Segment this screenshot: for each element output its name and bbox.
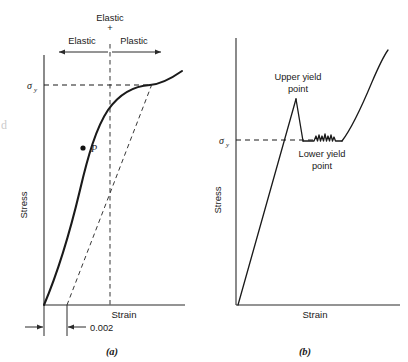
stress-strain-figure: d Elastic + Elastic Plastic σ y <box>0 0 408 362</box>
panel-a-x-axis-label: Strain <box>111 309 136 320</box>
panel-a-region-left-label: Elastic <box>68 36 96 46</box>
panel-b: σ y Upper yield point Lower yield point … <box>212 38 400 358</box>
panel-a-point-p-marker <box>80 145 85 150</box>
panel-b-upper-yield-label-line1: Upper yield <box>274 72 321 82</box>
panel-a-caption: (a) <box>106 346 118 358</box>
panel-b-yield-stress-subscript: y <box>225 141 230 149</box>
panel-b-yield-stress-label: σ <box>219 135 225 146</box>
figure-canvas: d Elastic + Elastic Plastic σ y <box>0 0 408 362</box>
panel-a-yield-stress-subscript: y <box>33 86 38 94</box>
panel-b-upper-yield-label-line2: point <box>288 84 309 94</box>
panel-b-lower-yield-label-line1: Lower yield <box>298 149 345 159</box>
panel-b-strain-hardening-curve <box>342 50 388 141</box>
panel-a-region-right-label: Plastic <box>120 36 148 46</box>
panel-b-caption: (b) <box>299 346 311 358</box>
panel-b-lower-yield-label-line2: point <box>312 161 333 171</box>
panel-a-region-plus-label: + <box>107 23 112 33</box>
page-bleed-text: d <box>1 118 7 132</box>
panel-a-offset-label: 0.002 <box>90 323 113 333</box>
panel-b-elastic-rise <box>238 99 296 305</box>
panel-a-stress-strain-curve <box>44 71 182 305</box>
panel-b-y-axis-label: Stress <box>212 186 223 213</box>
panel-a: Elastic + Elastic Plastic σ y P <box>18 13 185 358</box>
panel-a-y-axis-label: Stress <box>18 191 29 218</box>
panel-b-yield-drop <box>296 99 303 141</box>
panel-a-point-p-label: P <box>90 143 97 154</box>
panel-a-region-top-label: Elastic <box>96 13 124 23</box>
panel-a-yield-stress-label: σ <box>27 80 33 91</box>
panel-b-x-axis-label: Strain <box>302 309 327 320</box>
